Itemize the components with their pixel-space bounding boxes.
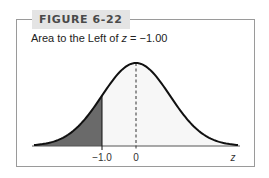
z-axis-label: z <box>230 152 236 163</box>
tick-label: 0 <box>133 152 139 163</box>
normal-curve-plot: −1.00 z <box>0 0 269 178</box>
shaded-area-left-tail <box>34 96 102 146</box>
tick-label: −1.0 <box>92 152 112 163</box>
tick-labels: −1.00 <box>92 152 139 163</box>
